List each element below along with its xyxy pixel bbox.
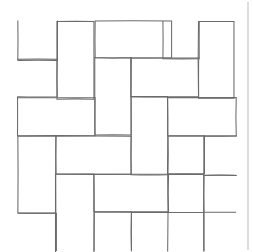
canvas-background [0, 0, 253, 252]
basketweave-pattern-canvas [0, 0, 253, 252]
brick-pattern-figure [0, 0, 253, 252]
